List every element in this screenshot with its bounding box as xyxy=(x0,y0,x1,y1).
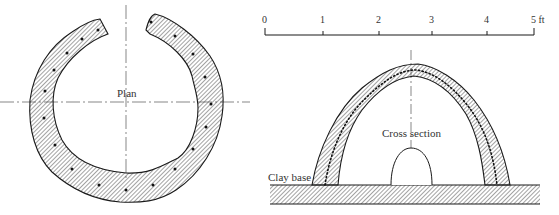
scale-bar: 0 1 2 3 4 5 ft xyxy=(262,14,545,35)
scale-tick-1: 1 xyxy=(320,14,325,25)
inner-dome xyxy=(391,148,432,185)
clay-base-label: Clay base xyxy=(268,171,311,183)
cross-section-label: Cross section xyxy=(382,127,441,139)
plan-ring-wall xyxy=(30,14,223,202)
plan-label: Plan xyxy=(117,87,137,99)
scale-tick-5: 5 ft xyxy=(531,14,545,25)
cross-section-view: Cross section Clay base xyxy=(268,50,540,204)
diagram-canvas: Plan 0 1 2 3 4 5 ft Cross section Clay b… xyxy=(0,0,559,215)
scale-tick-2: 2 xyxy=(376,14,381,25)
scale-tick-4: 4 xyxy=(484,14,489,25)
clay-base-ground xyxy=(270,185,540,204)
scale-tick-0: 0 xyxy=(262,14,267,25)
scale-tick-3: 3 xyxy=(429,14,434,25)
plan-view: Plan xyxy=(0,5,250,202)
